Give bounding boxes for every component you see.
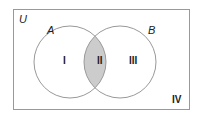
region-iii-label: III bbox=[129, 56, 137, 66]
set-a-label: A bbox=[47, 25, 54, 36]
region-iv-label: IV bbox=[172, 95, 181, 105]
region-ii-label: II bbox=[97, 56, 103, 66]
region-i-label: I bbox=[63, 56, 66, 66]
universe-label: U bbox=[19, 14, 27, 25]
set-b-label: B bbox=[148, 25, 155, 36]
